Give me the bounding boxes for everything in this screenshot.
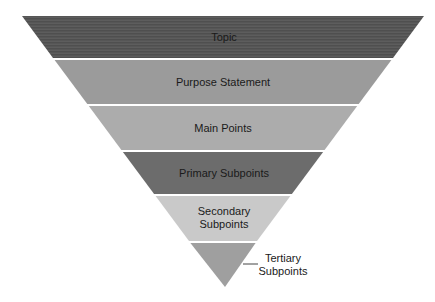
label-main-points: Main Points — [194, 122, 251, 135]
pyramid-graphic — [0, 0, 435, 302]
label-tertiary-line-1: Tertiary — [259, 252, 308, 265]
label-secondary-subpoints: Secondary Subpoints — [198, 205, 251, 231]
label-tertiary-subpoints: Tertiary Subpoints — [259, 252, 308, 278]
label-secondary-line-2: Subpoints — [198, 218, 251, 231]
band-tertiary-subpoints — [190, 243, 255, 287]
label-primary-subpoints: Primary Subpoints — [179, 167, 269, 180]
inverted-pyramid-diagram: Topic Purpose Statement Main Points Prim… — [0, 0, 435, 302]
label-tertiary-line-2: Subpoints — [259, 265, 308, 278]
label-secondary-line-1: Secondary — [198, 205, 251, 218]
label-purpose-statement: Purpose Statement — [176, 76, 270, 89]
label-topic: Topic — [211, 31, 237, 44]
